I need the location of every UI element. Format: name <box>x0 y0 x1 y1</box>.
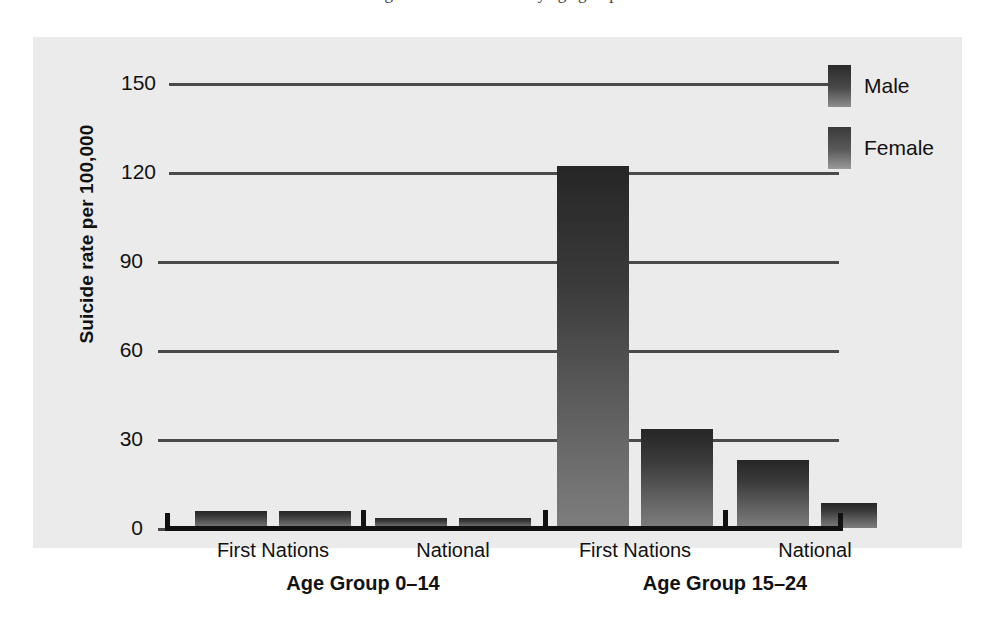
gridline-90 <box>169 261 839 264</box>
gridline-120 <box>169 172 839 175</box>
top-caption-fragment: Figure — suicide rates by age group <box>0 0 988 4</box>
y-tick-label-150: 150 <box>121 71 156 95</box>
x-axis-separator-1 <box>361 510 366 528</box>
y-tick-stub-90 <box>158 261 169 264</box>
y-tick-stub-60 <box>158 350 169 353</box>
legend-item-female: Female <box>828 127 934 169</box>
chart-legend: Male Female <box>828 65 934 189</box>
x-cluster-label-1: First Nations <box>217 539 329 562</box>
chart-figure-panel: Suicide rate per 100,000 150 120 90 60 3… <box>33 37 962 548</box>
legend-label-male: Male <box>864 74 910 98</box>
x-axis-left-cap <box>165 513 170 531</box>
female-swatch-icon <box>828 127 851 169</box>
male-swatch-icon <box>828 65 851 107</box>
x-axis-separator-3 <box>723 510 728 528</box>
age-group-label-15-24: Age Group 15–24 <box>643 572 808 595</box>
bar-age15-24-first-nations-female <box>641 429 713 528</box>
plot-area: 150 120 90 60 30 0 First Nations Nat <box>169 83 839 528</box>
x-cluster-label-3: First Nations <box>579 539 691 562</box>
gridline-30 <box>169 439 839 442</box>
x-cluster-label-4: National <box>778 539 851 562</box>
x-axis-separator-2 <box>543 510 548 528</box>
gridline-60 <box>169 350 839 353</box>
age-group-label-0-14: Age Group 0–14 <box>286 572 439 595</box>
x-axis-right-cap <box>838 513 843 531</box>
bar-age15-24-national-female <box>821 503 877 528</box>
y-tick-label-60: 60 <box>120 338 143 362</box>
y-tick-label-120: 120 <box>121 160 156 184</box>
bar-age15-24-first-nations-male <box>557 166 629 528</box>
legend-item-male: Male <box>828 65 934 107</box>
y-tick-label-30: 30 <box>120 427 143 451</box>
bar-age15-24-national-male <box>737 460 809 528</box>
y-axis-title: Suicide rate per 100,000 <box>76 104 98 364</box>
y-tick-label-0: 0 <box>131 516 143 540</box>
y-tick-label-90: 90 <box>120 249 143 273</box>
x-cluster-label-2: National <box>416 539 489 562</box>
y-tick-stub-30 <box>158 439 169 442</box>
gridline-150 <box>169 83 839 86</box>
x-axis-line <box>165 526 843 531</box>
legend-label-female: Female <box>864 136 934 160</box>
